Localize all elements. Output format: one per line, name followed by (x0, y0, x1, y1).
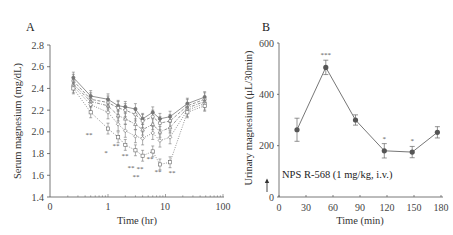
significance-marker: * (104, 149, 108, 157)
x-tick-label: 180 (434, 202, 449, 213)
x-tick-label: 90 (355, 202, 365, 213)
panel-a-plot-area: ******************* (72, 72, 207, 181)
figure: A 1.41.61.82.02.22.42.62.8 0110100 Serum… (0, 0, 453, 235)
data-point (141, 119, 144, 122)
data-point (72, 87, 75, 90)
data-point (134, 134, 138, 138)
significance-marker: * (383, 135, 387, 143)
data-point (203, 104, 206, 107)
significance-marker: ** (113, 142, 121, 150)
significance-marker: * (410, 137, 414, 145)
data-point (151, 122, 155, 125)
y-tick-label: 200 (259, 140, 274, 151)
x-tick-label: 120 (380, 202, 395, 213)
y-tick-label: 0 (269, 192, 274, 203)
significance-marker: ** (133, 173, 141, 181)
y-tick-label: 2.4 (32, 83, 45, 94)
significance-marker: *** (321, 51, 332, 59)
data-point (168, 161, 171, 164)
significance-marker: ** (169, 169, 177, 177)
x-tick-label: 150 (407, 202, 422, 213)
data-point (117, 136, 120, 139)
y-tick-label: 2.6 (32, 61, 45, 72)
arrow-icon (265, 179, 269, 193)
y-tick-label: 1.6 (32, 170, 45, 181)
data-point (353, 117, 358, 122)
significance-marker: ** (86, 131, 94, 139)
y-tick-label: 1.4 (32, 192, 45, 203)
panel-a-label: A (26, 20, 35, 34)
panel-b-label: B (262, 20, 270, 34)
y-tick-label: 2.0 (32, 126, 45, 137)
data-point (323, 65, 328, 70)
data-point (410, 149, 415, 154)
data-point (124, 109, 127, 112)
data-point (117, 106, 120, 109)
data-point (134, 113, 137, 116)
panel-b-plot-area: ***** (294, 51, 440, 158)
significance-marker: ** (137, 165, 145, 173)
panel-b-x-axis: 0306090120150180 (277, 195, 449, 213)
data-point (158, 163, 161, 166)
data-point (141, 128, 145, 131)
panel-a-x-label: Time (hr) (117, 215, 158, 227)
y-tick-label: 1.8 (32, 148, 45, 159)
data-point (89, 111, 92, 114)
data-point (134, 149, 137, 152)
significance-marker: ** (128, 164, 136, 172)
data-point (141, 154, 144, 157)
data-point (106, 127, 109, 130)
y-tick-label: 2.2 (32, 105, 45, 116)
data-point (151, 115, 154, 118)
drug-annotation: NPS R-568 (1 mg/kg, i.v.) (282, 169, 393, 181)
x-tick-label: 10 (160, 201, 170, 212)
y-tick-label: 600 (259, 38, 274, 49)
data-point (151, 150, 154, 153)
data-point (158, 122, 161, 125)
y-tick-label: 400 (259, 89, 274, 100)
significance-marker: ** (147, 155, 155, 163)
x-tick-label: 0 (48, 201, 53, 212)
data-point (435, 130, 440, 135)
data-point (151, 131, 155, 135)
panel-b: B 0200400600 0306090120150180 Urinary ma… (243, 20, 449, 227)
data-point (141, 136, 145, 140)
series-line (297, 67, 437, 152)
panel-b-y-label: Urinary magnesium (μL/30min) (243, 50, 255, 186)
significance-marker: ** (155, 168, 163, 176)
x-tick-label: 60 (328, 202, 338, 213)
series-line (73, 78, 204, 119)
data-point (294, 127, 299, 132)
x-tick-label: 30 (301, 202, 311, 213)
x-tick-label: 100 (216, 201, 231, 212)
y-tick-label: 2.8 (32, 40, 45, 51)
significance-marker: ** (122, 152, 130, 160)
x-tick-label: 0 (277, 202, 282, 213)
panel-a: A 1.41.61.82.02.22.42.62.8 0110100 Serum… (12, 20, 231, 227)
panel-a-y-label: Serum magnesium (mg/dL) (12, 62, 24, 179)
panel-b-x-label: Time (min) (336, 215, 384, 227)
x-tick-label: 1 (106, 201, 111, 212)
panel-b-y-axis: 0200400600 (259, 38, 279, 203)
panel-a-x-axis: 0110100 (48, 194, 231, 212)
data-point (186, 111, 189, 114)
data-point (124, 143, 127, 146)
panel-a-y-axis: 1.41.61.82.02.22.42.62.8 (32, 40, 51, 203)
data-point (382, 148, 387, 153)
